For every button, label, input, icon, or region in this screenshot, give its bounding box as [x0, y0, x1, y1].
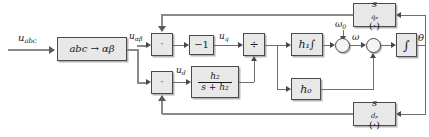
- arrow-into-mul-d-bottom: [158, 95, 166, 101]
- s-qp-symbol: s: [369, 0, 380, 9]
- signal-label-theta: θ: [418, 33, 424, 43]
- signal-label-u-abc: uabc: [18, 33, 37, 45]
- arrow-into-divide-bottom: [251, 56, 257, 61]
- arrow-into-sqp: [396, 12, 401, 18]
- wire-to-h1-int: [277, 45, 287, 46]
- block-clarke-transform: abc → αβ: [57, 37, 127, 61]
- arrow-into-mul-q-top: [158, 26, 166, 32]
- wire-alphabeta-split-vert: [137, 49, 139, 84]
- block-divide: ÷: [243, 33, 265, 56]
- signal-label-u-alphabeta: uαβ: [129, 32, 142, 42]
- wire-theta-to-sqp: [401, 15, 425, 16]
- signal-label-u-d: ud: [176, 66, 186, 76]
- wire-divide-split-vert: [277, 45, 278, 90]
- signal-label-omega: ω: [352, 33, 359, 42]
- wire-gain-to-divide: [214, 45, 239, 46]
- signal-label-u-q: uq: [219, 32, 229, 42]
- s-dp-symbol: s: [369, 98, 380, 108]
- wire-theta-bus: [425, 15, 426, 115]
- block-lowpass-filter: h₂ s + h₂: [191, 66, 239, 98]
- lpf-numerator: h₂: [198, 72, 231, 81]
- summing-junction-phase: [366, 38, 381, 53]
- wire-theta-to-sdp: [401, 114, 425, 115]
- wire-sdp-feedback-vert: [161, 101, 163, 114]
- wire-to-h0: [277, 89, 287, 90]
- s-dp-argument: (·): [369, 120, 380, 130]
- wire-sqp-feedback-horiz: [162, 14, 353, 16]
- arrow-into-clarke: [49, 46, 55, 54]
- block-multiplier-d: ·: [151, 71, 173, 94]
- block-s-qp: sqₚ(·): [353, 3, 396, 27]
- block-multiplier-q: ·: [151, 33, 173, 56]
- block-h1-integral: h₁∫: [291, 33, 323, 56]
- arrow-into-sum2-bottom: [370, 53, 376, 58]
- s-qp-argument: (·): [369, 21, 380, 31]
- wire-h0-out: [321, 89, 374, 90]
- summing-junction-omega: [335, 38, 350, 53]
- lpf-denominator: s + h₂: [198, 82, 231, 92]
- wire-lpf-out: [239, 82, 254, 83]
- wire-lpf-to-divide-vert: [254, 61, 255, 82]
- signal-label-omega-zero: ω0: [335, 20, 346, 30]
- block-gain-negative-one: −1: [189, 35, 214, 55]
- block-h0: h₀: [291, 78, 321, 100]
- block-s-dp: sdₚ(·): [353, 102, 396, 126]
- arrow-into-sdp: [396, 111, 401, 117]
- wire-u-abc: [8, 49, 50, 51]
- wire-muld-to-lpf: [173, 82, 187, 83]
- block-integrator: ∫: [396, 33, 417, 57]
- block-diagram: uabc abc → αβ uαβ · · −1 uq ÷ ud: [0, 0, 429, 137]
- wire-h0-to-sum2-vert: [373, 58, 374, 89]
- wire-sdp-feedback-horiz: [162, 113, 353, 115]
